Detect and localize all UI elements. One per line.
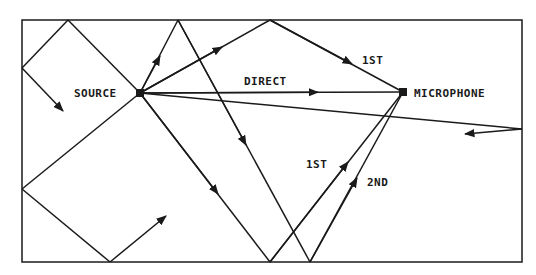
room-boundary: [22, 20, 522, 262]
microphone-marker: [399, 88, 407, 96]
second-label: 2ND: [367, 176, 388, 189]
direct-label: DIRECT: [244, 75, 287, 88]
first-top-label: 1ST: [362, 54, 383, 67]
source-label: SOURCE: [74, 87, 117, 100]
reflection-diagram: SOURCE MICROPHONE DIRECT 1ST 1ST 2ND: [0, 0, 536, 275]
first-bottom-label: 1ST: [306, 158, 327, 171]
lower-left-reflection-path: [22, 93, 140, 189]
left-reflection-path: [68, 20, 140, 93]
microphone-label: MICROPHONE: [414, 87, 485, 100]
source-marker: [136, 89, 144, 97]
